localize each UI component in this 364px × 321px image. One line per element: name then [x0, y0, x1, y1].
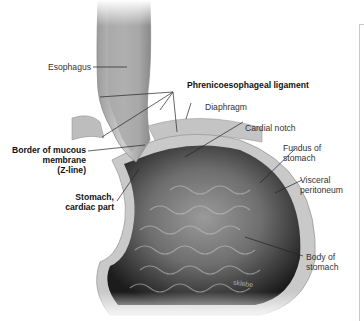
- label-cardial-notch: Cardial notch: [245, 123, 296, 133]
- label-visceral-peritoneum: Visceral peritoneum: [300, 175, 343, 195]
- label-border-of-mucous-membrane: Border of mucous membrane (Z-line): [10, 145, 86, 175]
- diaphragm-left: [72, 116, 104, 140]
- label-fundus-of-stomach: Fundus of stomach: [283, 143, 321, 163]
- label-body-of-stomach: Body of stomach: [306, 252, 338, 272]
- label-diaphragm: Diaphragm: [205, 102, 247, 112]
- label-phrenicoesophageal-ligament: Phrenicoesophageal ligament: [187, 80, 309, 90]
- label-esophagus: Esophagus: [48, 62, 91, 72]
- figure-frame-border: [359, 24, 364, 321]
- label-stomach-cardiac-part: Stomach, cardiac part: [40, 192, 114, 212]
